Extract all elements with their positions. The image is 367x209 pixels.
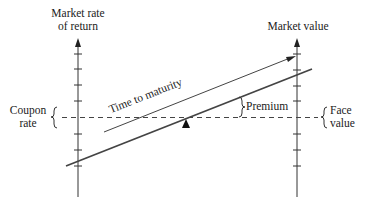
coupon-rate-label: Coupon rate: [6, 104, 50, 130]
face-value-label: Face value: [330, 104, 364, 130]
premium-label: Premium: [246, 100, 288, 113]
premium-brace: [239, 97, 245, 117]
right-axis-label: Market value: [262, 20, 334, 33]
right-axis-arrow-icon: [294, 38, 300, 47]
left-axis-arrow-icon: [75, 38, 81, 47]
coupon-brace: [51, 107, 57, 128]
face-value-brace: [321, 107, 327, 128]
time-arrowhead-icon: [286, 56, 296, 62]
left-axis-label: Market rate of return: [40, 7, 116, 33]
